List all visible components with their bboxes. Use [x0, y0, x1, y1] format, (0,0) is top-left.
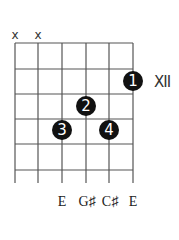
muted-string-2-marker: x	[34, 28, 41, 42]
muted-string-1-marker: x	[11, 28, 18, 42]
finger-2-dot: 2	[76, 96, 96, 116]
note-label-string-6: E	[129, 194, 138, 210]
note-label-string-5: C♯	[102, 194, 118, 210]
note-label-string-4: G♯	[78, 194, 95, 210]
finger-1-dot: 1	[123, 71, 143, 91]
note-label-string-3: E	[58, 194, 67, 210]
finger-4-dot: 4	[99, 120, 119, 140]
finger-3-dot: 3	[52, 120, 72, 140]
fret-position-label: XII	[154, 73, 170, 91]
